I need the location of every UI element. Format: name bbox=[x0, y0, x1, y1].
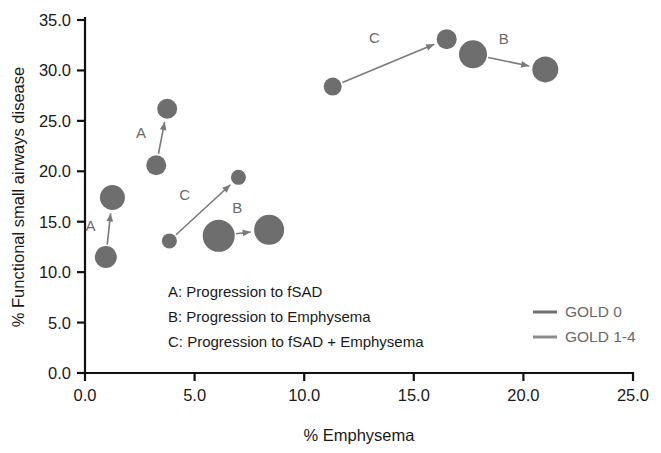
scatter-plot-figure: 0.05.010.015.020.025.030.035.00.05.010.0… bbox=[0, 0, 661, 453]
annotation-line-3: C: Progression to fSAD + Emphysema bbox=[168, 333, 424, 350]
data-points bbox=[95, 29, 558, 268]
x-tick-label: 25.0 bbox=[617, 386, 649, 404]
arrow-label-c-4: C bbox=[369, 29, 380, 46]
y-tick-label: 35.0 bbox=[39, 11, 71, 29]
y-tick-label: 25.0 bbox=[39, 112, 71, 130]
y-tick-label: 10.0 bbox=[39, 263, 71, 281]
x-tick-label: 0.0 bbox=[74, 386, 97, 404]
data-point-p4-start bbox=[203, 220, 235, 252]
x-tick-label: 20.0 bbox=[507, 386, 539, 404]
data-point-p4-end bbox=[254, 215, 284, 245]
data-point-p6-end bbox=[532, 56, 558, 82]
x-tick-label: 10.0 bbox=[288, 386, 320, 404]
legend-label-0: GOLD 0 bbox=[565, 303, 622, 320]
arrow-label-c-2: C bbox=[179, 186, 190, 203]
data-point-p6-start bbox=[459, 40, 487, 68]
annotation-line-1: A: Progression to fSAD bbox=[168, 283, 322, 300]
y-tick-label: 5.0 bbox=[48, 314, 71, 332]
data-point-p5-start bbox=[324, 78, 342, 96]
data-point-p2-start bbox=[146, 155, 166, 175]
plot-canvas: 0.05.010.015.020.025.030.035.00.05.010.0… bbox=[0, 0, 661, 453]
arrow-label-b-3: B bbox=[232, 199, 242, 216]
y-tick-label: 0.0 bbox=[48, 364, 71, 382]
arrow-head-a-1 bbox=[160, 122, 167, 131]
arrow-label-a-0: A bbox=[85, 217, 95, 234]
data-point-p3-start bbox=[162, 233, 177, 248]
arrow-label-b-5: B bbox=[499, 30, 509, 47]
arrow-annotations bbox=[106, 44, 529, 244]
arrow-head-b-5 bbox=[521, 61, 530, 68]
arrow-labels: AACBCB bbox=[85, 29, 508, 234]
data-point-p3-end bbox=[231, 170, 246, 185]
legend-label-1: GOLD 1-4 bbox=[565, 328, 636, 345]
arrow-shaft-c-4 bbox=[342, 44, 434, 82]
data-point-p5-end bbox=[437, 29, 457, 49]
annotation-line-2: B: Progression to Emphysema bbox=[168, 308, 371, 325]
x-tick-label: 5.0 bbox=[183, 386, 206, 404]
arrow-label-a-1: A bbox=[136, 124, 146, 141]
data-point-p1-end bbox=[100, 185, 125, 210]
data-point-p1-start bbox=[95, 246, 117, 268]
x-axis-title: % Emphysema bbox=[304, 426, 416, 444]
y-tick-label: 15.0 bbox=[39, 213, 71, 231]
y-axis-title: % Functional small airways disease bbox=[9, 67, 27, 327]
y-tick-label: 20.0 bbox=[39, 162, 71, 180]
annotation-legend: A: Progression to fSADB: Progression to … bbox=[168, 283, 424, 350]
x-tick-label: 15.0 bbox=[398, 386, 430, 404]
series-legend: GOLD 0GOLD 1-4 bbox=[533, 303, 636, 345]
data-point-p2-end bbox=[157, 99, 177, 119]
y-tick-label: 30.0 bbox=[39, 61, 71, 79]
